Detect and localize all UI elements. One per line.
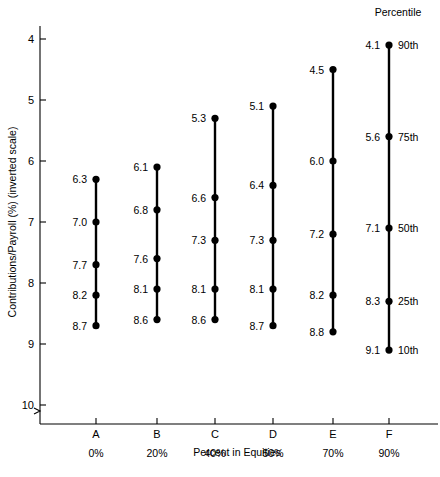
x-tick-label-d: D bbox=[269, 428, 277, 440]
data-point-25th bbox=[329, 292, 336, 299]
data-label-c-90th: 5.3 bbox=[191, 112, 206, 124]
data-point-25th bbox=[269, 286, 276, 293]
data-point-10th bbox=[329, 328, 336, 335]
data-label-b-10th: 8.6 bbox=[133, 314, 148, 326]
data-point-50th bbox=[211, 237, 218, 244]
column-a: 6.37.07.78.28.7 bbox=[72, 173, 99, 331]
data-label-a-10th: 8.7 bbox=[72, 320, 87, 332]
column-b: 6.16.87.68.18.6 bbox=[133, 161, 160, 326]
y-tick-label: 6 bbox=[28, 155, 34, 167]
data-label-d-25th: 8.1 bbox=[249, 283, 264, 295]
data-point-75th bbox=[153, 206, 160, 213]
data-label-e-25th: 8.2 bbox=[309, 289, 324, 301]
x-tick-label-e: E bbox=[329, 428, 336, 440]
column-e: 4.56.07.28.28.8 bbox=[309, 64, 336, 338]
data-label-c-10th: 8.6 bbox=[191, 314, 206, 326]
data-label-d-50th: 7.3 bbox=[249, 234, 264, 246]
percentile-label-75th: 75th bbox=[398, 131, 419, 143]
data-label-a-90th: 6.3 bbox=[72, 173, 87, 185]
data-point-10th bbox=[385, 347, 392, 354]
y-tick-label: 8 bbox=[28, 277, 34, 289]
x-tick-label-c: C bbox=[211, 428, 219, 440]
data-point-75th bbox=[329, 157, 336, 164]
x-tick-label-f: F bbox=[386, 428, 393, 440]
y-tick-label: 4 bbox=[28, 33, 34, 45]
column-c: 5.36.67.38.18.6 bbox=[191, 112, 218, 325]
y-tick-label: 9 bbox=[28, 338, 34, 350]
percentile-label-90th: 90th bbox=[398, 39, 419, 51]
data-label-b-50th: 7.6 bbox=[133, 253, 148, 265]
x-axis-title: Percent in Equities bbox=[193, 446, 281, 458]
data-label-b-75th: 6.8 bbox=[133, 204, 148, 216]
data-point-50th bbox=[329, 231, 336, 238]
data-label-c-50th: 7.3 bbox=[191, 234, 206, 246]
x-tick-sublabel-b: 20% bbox=[146, 447, 167, 459]
y-axis-ticks: 45678910 bbox=[22, 33, 46, 411]
chart-container: 45678910 A0%B20%C40%D50%E70%F90% 6.37.07… bbox=[0, 0, 440, 477]
data-label-a-25th: 8.2 bbox=[72, 289, 87, 301]
percentile-label-10th: 10th bbox=[398, 344, 419, 356]
data-label-c-75th: 6.6 bbox=[191, 192, 206, 204]
data-point-75th bbox=[92, 218, 99, 225]
y-tick-label: 10 bbox=[22, 399, 34, 411]
data-label-e-75th: 6.0 bbox=[309, 155, 324, 167]
data-point-90th bbox=[153, 164, 160, 171]
data-label-e-10th: 8.8 bbox=[309, 326, 324, 338]
data-label-f-50th: 7.1 bbox=[365, 222, 380, 234]
percentile-label-50th: 50th bbox=[398, 222, 419, 234]
data-label-f-75th: 5.6 bbox=[365, 131, 380, 143]
data-label-f-10th: 9.1 bbox=[365, 344, 380, 356]
data-point-50th bbox=[92, 261, 99, 268]
data-point-10th bbox=[153, 316, 160, 323]
legend-percentile-labels: 90th75th50th25th10th bbox=[398, 39, 419, 356]
chart-svg: 45678910 A0%B20%C40%D50%E70%F90% 6.37.07… bbox=[0, 0, 440, 477]
y-tick-label: 5 bbox=[28, 94, 34, 106]
data-point-75th bbox=[385, 133, 392, 140]
data-point-90th bbox=[385, 42, 392, 49]
data-point-25th bbox=[153, 286, 160, 293]
data-point-75th bbox=[211, 194, 218, 201]
data-point-75th bbox=[269, 182, 276, 189]
data-label-d-10th: 8.7 bbox=[249, 320, 264, 332]
x-tick-label-b: B bbox=[153, 428, 160, 440]
axis-break-mark bbox=[34, 408, 40, 414]
data-point-10th bbox=[92, 322, 99, 329]
percentile-label-25th: 25th bbox=[398, 295, 419, 307]
x-tick-sublabel-a: 0% bbox=[88, 447, 103, 459]
data-point-90th bbox=[211, 115, 218, 122]
x-tick-sublabel-f: 90% bbox=[378, 447, 399, 459]
data-label-a-75th: 7.0 bbox=[72, 216, 87, 228]
legend-title: Percentile bbox=[375, 6, 422, 18]
data-point-25th bbox=[211, 286, 218, 293]
data-point-10th bbox=[269, 322, 276, 329]
data-label-f-25th: 8.3 bbox=[365, 295, 380, 307]
data-label-e-90th: 4.5 bbox=[309, 64, 324, 76]
column-f: 4.15.67.18.39.1 bbox=[365, 39, 392, 356]
x-tick-sublabel-e: 70% bbox=[322, 447, 343, 459]
data-label-d-75th: 6.4 bbox=[249, 179, 264, 191]
data-point-25th bbox=[385, 298, 392, 305]
series-columns: 6.37.07.78.28.76.16.87.68.18.65.36.67.38… bbox=[72, 39, 392, 356]
data-point-50th bbox=[385, 225, 392, 232]
data-point-50th bbox=[153, 255, 160, 262]
y-axis-title: Contributions/Payroll (%) (inverted scal… bbox=[6, 127, 18, 318]
data-label-d-90th: 5.1 bbox=[249, 100, 264, 112]
data-point-10th bbox=[211, 316, 218, 323]
data-point-50th bbox=[269, 237, 276, 244]
y-tick-label: 7 bbox=[28, 216, 34, 228]
data-point-90th bbox=[92, 176, 99, 183]
data-point-90th bbox=[269, 103, 276, 110]
data-label-b-90th: 6.1 bbox=[133, 161, 148, 173]
data-label-c-25th: 8.1 bbox=[191, 283, 206, 295]
column-d: 5.16.47.38.18.7 bbox=[249, 100, 276, 332]
data-label-b-25th: 8.1 bbox=[133, 283, 148, 295]
data-label-a-50th: 7.7 bbox=[72, 259, 87, 271]
data-point-90th bbox=[329, 66, 336, 73]
data-label-f-90th: 4.1 bbox=[365, 39, 380, 51]
data-point-25th bbox=[92, 292, 99, 299]
data-label-e-50th: 7.2 bbox=[309, 228, 324, 240]
x-tick-label-a: A bbox=[92, 428, 100, 440]
